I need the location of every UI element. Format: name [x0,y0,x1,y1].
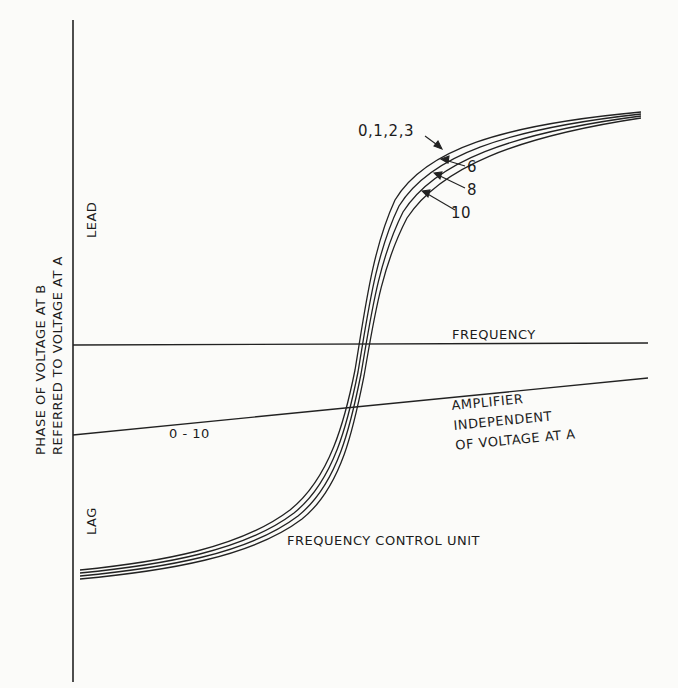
curve-tag-0-1-2-3: 0,1,2,3 [358,122,414,140]
frequency-control-unit-label: FREQUENCY CONTROL UNIT [287,533,480,548]
curve-0-1-2-3 [80,112,641,570]
curve-tag-6: 6 [467,158,477,176]
amplifier-label-line-1: AMPLIFIER [451,391,524,413]
amplifier-line [73,378,648,435]
y-axis-label-line-1: PHASE OF VOLTAGE AT B [33,284,48,455]
amplifier-series-label: 0 - 10 [169,426,210,441]
chart-canvas: 0,1,2,3 6 8 10 FREQUENCY AMPLIFIER INDEP… [0,0,678,688]
lead-label: LEAD [84,202,99,238]
chart-figure: 0,1,2,3 6 8 10 FREQUENCY AMPLIFIER INDEP… [0,0,678,688]
curve-tag-10: 10 [451,204,471,222]
curve-10 [80,118,641,579]
amplifier-label: AMPLIFIER INDEPENDENT OF VOLTAGE AT A [451,386,576,452]
curve-tag-8: 8 [467,181,477,199]
frequency-line [73,343,648,345]
frequency-control-curves [80,112,641,579]
frequency-line-label: FREQUENCY [452,327,536,342]
curve-8 [80,116,641,576]
lag-label: LAG [84,507,99,535]
y-axis-label-line-2: REFERRED TO VOLTAGE AT A [50,256,65,455]
